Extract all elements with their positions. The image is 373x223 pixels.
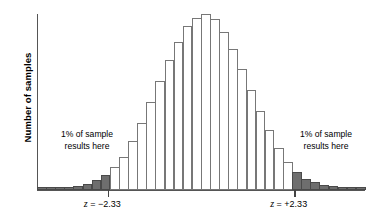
- right-tail-annotation-line2: results here: [283, 141, 369, 153]
- left-tail-annotation: 1% of sample results here: [41, 129, 133, 152]
- left-tail-annotation-line2: results here: [41, 141, 133, 153]
- right-tail-annotation-line1: 1% of sample: [283, 129, 369, 141]
- x-tick-mark-right: [294, 190, 295, 197]
- y-axis-label: Number of samples: [22, 23, 33, 173]
- x-tick-mark-left: [108, 190, 109, 197]
- z-value-right: +2.33: [284, 199, 307, 209]
- z-equals-right: =: [274, 199, 284, 209]
- right-tail-annotation: 1% of sample results here: [283, 129, 369, 152]
- x-axis-line: [37, 190, 365, 191]
- plot-area: [37, 14, 365, 190]
- z-value-left: −2.33: [98, 199, 121, 209]
- histogram-bar: [356, 187, 366, 190]
- x-tick-label-right: z = +2.33: [270, 198, 307, 209]
- histogram-figure: Number of samples z = −2.33 z = +2.33 1%…: [0, 0, 373, 223]
- x-tick-label-left: z = −2.33: [84, 198, 121, 209]
- left-tail-annotation-line1: 1% of sample: [41, 129, 133, 141]
- z-equals-left: =: [88, 199, 98, 209]
